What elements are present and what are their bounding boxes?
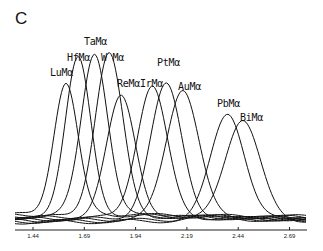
peak-label: AuMα: [178, 81, 201, 92]
peak-label: LuMα: [50, 67, 73, 78]
peak-label: BiMα: [240, 112, 263, 123]
x-tick-label: 1.94: [130, 233, 142, 239]
x-axis: [15, 227, 307, 230]
x-tick-label: 2.44: [232, 233, 244, 239]
peak-label: TaMα: [84, 36, 107, 47]
peak-label: W Mα: [101, 52, 124, 63]
x-tick-label: 2.19: [181, 233, 193, 239]
peak-label: PtMα: [157, 57, 180, 68]
x-tick-label: 2.69: [284, 233, 296, 239]
peak-label: ReMα: [117, 78, 140, 89]
peak-curve: [15, 121, 306, 225]
x-tick-label: 1.69: [78, 233, 90, 239]
peak-curve: [15, 91, 306, 223]
peak-label: PbMα: [217, 98, 240, 109]
peak-label: HfMα: [67, 52, 90, 63]
x-tick-label: 1.44: [27, 233, 39, 239]
peak-label: IrMα: [140, 78, 163, 89]
spectrum-plot: [0, 0, 323, 251]
